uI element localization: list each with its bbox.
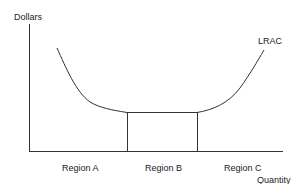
y-axis-label: Dollars <box>14 13 42 22</box>
curve-label: LRAC <box>258 37 282 46</box>
lrac-diagram <box>0 0 303 184</box>
region-a-label: Region A <box>62 164 99 173</box>
region-b-label: Region B <box>145 164 182 173</box>
lrac-curve <box>57 48 264 113</box>
x-axis-label: Quantity <box>257 176 291 184</box>
region-c-label: Region C <box>224 164 262 173</box>
